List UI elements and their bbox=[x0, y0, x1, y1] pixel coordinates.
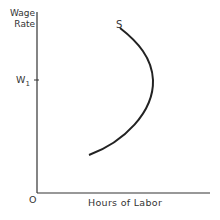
w1-label: W1 bbox=[16, 74, 30, 90]
supply-curve bbox=[89, 28, 153, 155]
x-axis-label: Hours of Labor bbox=[88, 197, 162, 208]
y-axis-label: Wage Rate bbox=[8, 8, 35, 30]
origin-label: O bbox=[29, 194, 36, 205]
curve-label-s: S bbox=[116, 19, 122, 30]
w1-sub: 1 bbox=[25, 80, 29, 88]
y-axis-label-line1: Wage bbox=[8, 8, 35, 19]
w1-main: W bbox=[16, 74, 25, 85]
chart-canvas bbox=[0, 0, 220, 220]
y-axis-label-line2: Rate bbox=[8, 19, 35, 30]
